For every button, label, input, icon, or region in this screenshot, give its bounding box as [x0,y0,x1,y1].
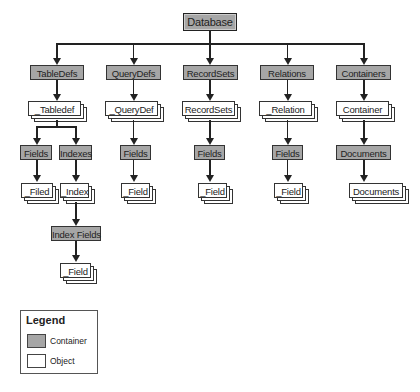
arrow-icon [284,58,292,65]
arrow-icon [284,138,292,145]
indexes-node: Indexes [59,145,92,160]
connector [209,160,211,176]
connector [36,160,38,176]
arrow-icon [72,255,80,262]
connector [36,126,76,128]
querydefs-node: QueryDefs [106,65,161,80]
arrow-icon [130,175,138,182]
arrow-icon [33,175,41,182]
connector [363,43,365,59]
connector [133,43,135,59]
connector [133,80,135,95]
connector [363,120,365,139]
recordset-object: RecordSets [182,101,235,116]
container-legend-label: Container [50,336,87,346]
documents-node: Documents [336,145,391,160]
arrow-icon [130,58,138,65]
connector [209,31,211,43]
connector [56,80,58,95]
arrow-icon [130,94,138,101]
fields-node: Fields [194,145,225,160]
connector [209,80,211,95]
field-object: _Field [198,183,227,198]
documents-object: Documents [349,183,403,198]
arrow-icon [72,138,80,145]
connector [287,43,289,59]
connector [75,241,77,256]
tabledef-object: _Tabledef [28,101,81,116]
arrow-icon [360,58,368,65]
connector [363,160,365,176]
field-object: _Field [121,183,150,198]
relations-node: Relations [260,65,314,80]
arrow-icon [130,138,138,145]
arrow-icon [360,138,368,145]
connector [75,160,77,176]
field-object: _Filed [21,183,53,198]
arrow-icon [206,175,214,182]
connector [133,120,135,139]
legend: Legend Container Object [20,310,98,374]
field-object: _Field [60,263,91,278]
connector [133,160,135,176]
object-legend-label: Object [50,356,75,366]
connector [287,160,289,176]
legend-title: Legend [26,314,65,326]
arrow-icon [360,175,368,182]
container-swatch [27,334,46,348]
connector [209,120,211,139]
arrow-icon [284,94,292,101]
connector [75,202,77,220]
arrow-icon [206,94,214,101]
index-object: _Index [60,183,89,198]
arrow-icon [53,94,61,101]
querydef-object: _QueryDef [105,101,158,116]
database-node: Database [183,13,237,31]
arrow-icon [33,138,41,145]
arrow-icon [53,58,61,65]
field-object: _Field [274,183,303,198]
recordsets-node: RecordSets [183,65,238,80]
arrow-icon [206,58,214,65]
connector [287,120,289,139]
connector [363,80,365,95]
fields-node: Fields [20,145,52,160]
arrow-icon [360,94,368,101]
connector [209,43,211,59]
container-object: Container [336,101,389,116]
index-fields-node: Index Fields [51,226,101,241]
containers-node: Containers [336,65,391,80]
connector [56,43,58,59]
fields-node: Fields [120,145,151,160]
tabledefs-node: TableDefs [30,65,84,80]
arrow-icon [206,138,214,145]
object-swatch [27,354,46,368]
connector [287,80,289,95]
arrow-icon [284,175,292,182]
fields-node: Fields [272,145,303,160]
arrow-icon [72,175,80,182]
relation-object: _Relation [259,101,312,116]
arrow-icon [72,219,80,226]
